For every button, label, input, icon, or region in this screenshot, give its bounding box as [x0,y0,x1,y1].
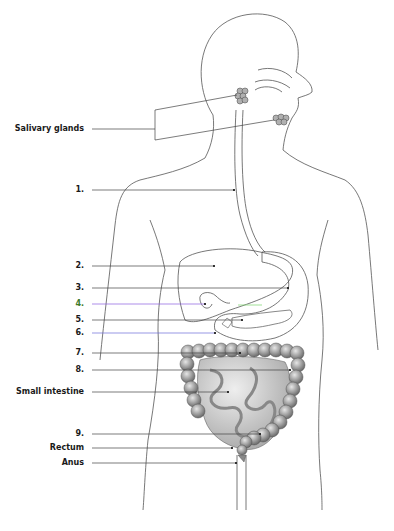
label-8: 8. [75,365,84,375]
head-outline [201,14,312,158]
label-4: 4. [75,299,84,309]
label-1: 1. [75,185,84,195]
salivary-glands-shapes [235,88,289,125]
gallbladder [200,293,230,309]
label-5: 5. [75,315,84,325]
label-anus: Anus [62,458,84,468]
label-6: 6. [75,328,84,338]
pancreas [232,310,292,328]
label-2: 2. [75,261,84,271]
label-3: 3. [75,283,84,293]
label-9: 9. [75,429,84,439]
label-7: 7. [75,348,84,358]
label-salivary-glands: Salivary glands [15,124,84,134]
duodenum-detail [222,318,232,328]
label-rectum: Rectum [50,443,84,453]
digestive-system-diagram: Salivary glands 1. 2. 3. 4. 5. 6. 7. 8. … [0,0,394,531]
liver [178,249,293,322]
label-small-intestine: Small intestine [16,387,84,397]
esophagus [235,110,265,256]
